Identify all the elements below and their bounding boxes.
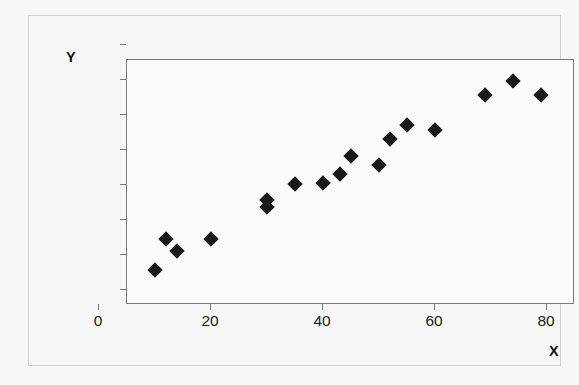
scatter-point bbox=[332, 166, 348, 182]
scatter-point bbox=[399, 117, 415, 133]
y-axis-title: Y bbox=[66, 49, 76, 65]
x-tick-label: 80 bbox=[516, 312, 576, 330]
scatter-point bbox=[170, 243, 186, 259]
scatter-point bbox=[315, 175, 331, 191]
scatter-point bbox=[343, 148, 359, 164]
x-tick-label: 20 bbox=[180, 312, 240, 330]
x-tick-mark bbox=[98, 304, 99, 310]
x-tick-mark bbox=[546, 304, 547, 310]
chart-container: Y X 020406080100120140 020406080 bbox=[28, 15, 561, 366]
scatter-point bbox=[478, 87, 494, 103]
x-tick-mark bbox=[210, 304, 211, 310]
scatter-point bbox=[203, 231, 219, 247]
y-tick-mark bbox=[120, 44, 126, 45]
x-tick-label: 40 bbox=[292, 312, 352, 330]
x-tick-label: 0 bbox=[68, 312, 128, 330]
x-tick-mark bbox=[434, 304, 435, 310]
scatter-point bbox=[427, 122, 443, 138]
scatter-point bbox=[534, 87, 550, 103]
x-axis-title: X bbox=[549, 343, 559, 359]
scatter-point bbox=[506, 73, 522, 89]
scatter-point bbox=[158, 231, 174, 247]
scatter-point bbox=[287, 176, 303, 192]
x-tick-mark bbox=[322, 304, 323, 310]
scatter-point bbox=[147, 262, 163, 278]
scatter-point bbox=[382, 131, 398, 147]
scatter-point bbox=[371, 157, 387, 173]
plot-area bbox=[126, 59, 574, 304]
x-tick-label: 60 bbox=[404, 312, 464, 330]
